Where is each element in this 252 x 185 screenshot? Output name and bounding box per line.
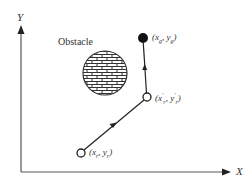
x-axis-arrow-icon [222,169,231,176]
obstacle-label: Obstacle [58,37,93,47]
y-axis-label: Y [17,12,23,23]
path-segment-2 [142,43,147,93]
x-axis [21,169,231,176]
goal-label: (xg, yg) [152,33,177,44]
y-axis [18,25,25,172]
x-axis-label: X [236,166,243,177]
y-axis-arrow-icon [18,25,25,34]
direction-arrow-icon [142,64,147,70]
start-point-marker [77,149,85,157]
diagram-canvas [0,0,252,185]
obstacle-circle [83,51,127,95]
intermediate-point-marker [143,93,151,101]
goal-point-marker [138,33,148,43]
path-segment-1 [84,100,144,150]
intermediate-label: (x′r, y′r) [155,92,181,105]
start-label: (xr, yr) [89,148,112,159]
